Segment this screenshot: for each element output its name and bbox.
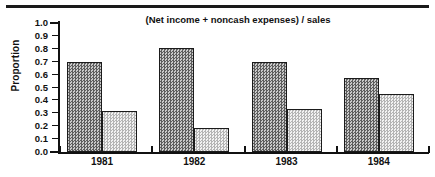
- bar-1983-dark: [252, 62, 287, 152]
- y-axis-tick-label: 0.9: [22, 31, 48, 41]
- x-axis-label-1983: 1983: [257, 157, 317, 167]
- y-axis-tick-labels: 1.00.90.80.70.60.50.40.30.20.10.0: [20, 0, 48, 177]
- y-axis-tick: [52, 48, 59, 49]
- y-axis-tick-label: 0.7: [22, 57, 48, 67]
- y-axis-tick: [52, 99, 59, 100]
- top-rule-divider: [6, 5, 429, 8]
- chart-figure: (Net income + noncash expenses) / sales …: [0, 0, 435, 177]
- y-axis-tick-label: 0.3: [22, 108, 48, 118]
- x-axis-label-1982: 1982: [164, 157, 224, 167]
- bar-1981-light: [102, 111, 137, 152]
- y-axis-tick-label: 0.4: [22, 95, 48, 105]
- y-axis-tick: [52, 87, 59, 88]
- y-axis-tick: [52, 35, 59, 36]
- y-axis-tick: [50, 22, 59, 24]
- y-axis-tick-label: 0.1: [22, 134, 48, 144]
- bar-1984-light: [379, 94, 414, 152]
- bar-1981-dark: [67, 62, 102, 152]
- y-axis-tick-label: 0.2: [22, 121, 48, 131]
- y-axis-tick: [52, 61, 59, 62]
- y-axis-tick-label: 0.0: [22, 147, 48, 157]
- y-axis-tick-label: 0.6: [22, 70, 48, 80]
- y-axis-label: Proportion: [10, 21, 21, 111]
- y-axis-tick: [52, 138, 59, 139]
- y-axis-tick: [52, 125, 59, 126]
- x-axis-label-1981: 1981: [72, 157, 132, 167]
- bar-1983-light: [287, 109, 322, 152]
- y-axis-tick: [52, 74, 59, 75]
- y-axis-tick: [52, 112, 59, 113]
- plot-area: [59, 23, 428, 152]
- y-axis-tick: [50, 151, 59, 153]
- y-axis-tick-label: 0.5: [22, 83, 48, 93]
- y-axis-tick-label: 0.8: [22, 44, 48, 54]
- x-axis-label-1984: 1984: [349, 157, 409, 167]
- x-axis-tick: [428, 146, 430, 153]
- bar-1982-light: [194, 128, 229, 153]
- bar-1984-dark: [344, 78, 379, 152]
- y-axis-tick-label: 1.0: [22, 18, 48, 28]
- bar-1982-dark: [159, 48, 194, 152]
